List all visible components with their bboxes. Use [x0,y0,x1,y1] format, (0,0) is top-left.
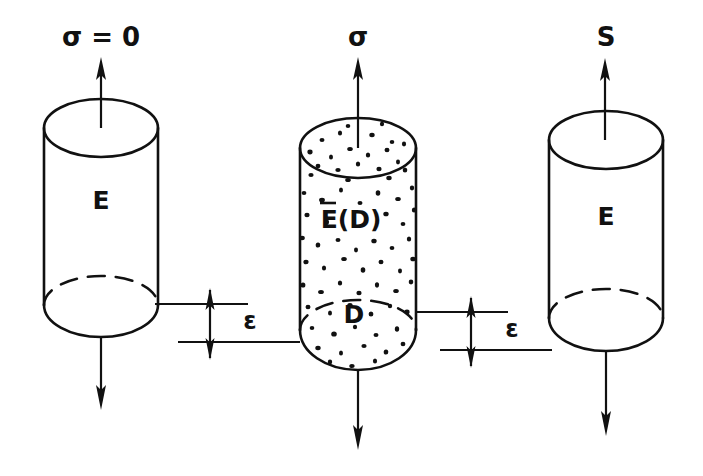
top-arrow-up-icon [600,58,610,140]
damage-speckles-body [299,164,416,369]
figure-canvas: σ = 0 E [0,0,703,476]
strain-label-right: ε [505,315,518,343]
damage-mechanics-figure: σ = 0 E [0,0,703,476]
cylinder-bottom-face [549,318,663,351]
top-arrow-up-icon [96,57,106,128]
cylinder-hidden-bottom-edge [549,289,663,318]
top-arrow-up-icon [353,57,363,148]
specimen-1-body-label: E [92,186,109,215]
effective-modulus-label-group: E(D) [320,203,381,234]
specimen-damaged: E(D) D σ [299,22,416,451]
specimen-2-top-label: σ [348,22,368,52]
bottom-arrow-down-icon [96,336,106,410]
bottom-arrow-down-icon [353,370,363,450]
strain-double-arrow-icon [206,288,215,360]
specimen-2-body-label: E(D) [321,205,382,234]
damage-speckles-top-face [307,122,406,172]
strain-indicator-left: ε [155,288,300,360]
specimen-3-top-label: S [597,22,616,52]
specimen-3-body-label: E [597,202,614,231]
bottom-arrow-down-icon [601,350,611,436]
specimen-effective: S E [549,22,663,437]
cylinder-hidden-bottom-edge [44,276,158,305]
strain-double-arrow-icon [467,296,476,368]
specimen-undamaged: σ = 0 E [44,22,158,411]
damage-variable-label: D [344,300,365,329]
specimen-1-top-label: σ = 0 [62,22,140,52]
strain-indicator-right: ε [416,296,552,368]
strain-label-left: ε [243,307,256,335]
cylinder-bottom-face [44,305,158,337]
